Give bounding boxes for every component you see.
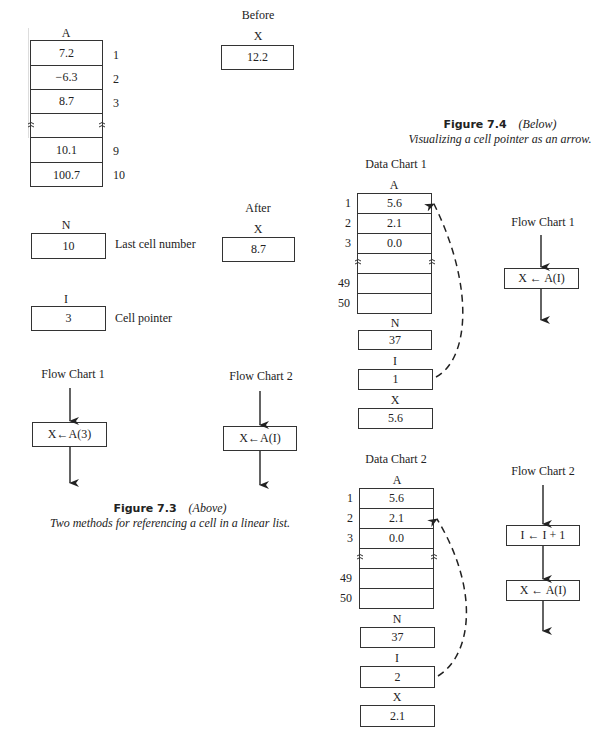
fig74-fc1-step-box: X ← A(I) [504, 268, 579, 289]
dc1-x-box: 5.6 [358, 408, 433, 429]
i-label: I [58, 292, 74, 307]
n-description: Last cell number [115, 237, 196, 252]
dc2-cell-1: 5.6 [360, 489, 433, 509]
figure-7-3-caption-text: Two methods for referencing a cell in a … [20, 516, 320, 531]
figure-7-3-position: (Above) [189, 501, 227, 515]
dc2-index-49: 49 [340, 571, 352, 586]
dc2-index-2: 2 [347, 511, 353, 526]
dc1-n-box: 37 [358, 330, 432, 350]
dc2-cell-2: 2.1 [360, 509, 433, 529]
fig74-fc2-title: Flow Chart 2 [500, 464, 586, 479]
dc2-array-label: A [387, 473, 407, 488]
dc1-array: 5.6 2.1 0.0 [357, 193, 432, 314]
dc2-n-label: N [387, 612, 407, 627]
array-a-cell-gap [31, 114, 102, 138]
after-x-box: 8.7 [222, 237, 295, 262]
fig74-fc1-title: Flow Chart 1 [500, 215, 586, 230]
dc2-i-box: 2 [360, 666, 435, 688]
dc1-cell-gap [358, 254, 431, 274]
figure-7-4-caption-text: Visualizing a cell pointer as an arrow. [395, 132, 605, 147]
dc2-array: 5.6 2.1 0.0 [359, 488, 434, 609]
before-heading: Before [222, 8, 294, 23]
before-x-label: X [222, 29, 294, 44]
after-x-label: X [222, 222, 294, 237]
dc2-cell-3: 0.0 [360, 529, 433, 549]
dc1-index-1: 1 [345, 196, 351, 211]
array-a-index-9: 9 [113, 144, 119, 159]
fc1-title: Flow Chart 1 [30, 367, 116, 382]
array-a: 7.2 −6.3 8.7 10.1 100.7 [30, 40, 103, 187]
dc1-index-49: 49 [338, 276, 350, 291]
dc1-pointer-arrow [434, 204, 463, 377]
array-a-cell-9: 10.1 [31, 138, 102, 163]
dc1-cell-49 [358, 274, 431, 294]
array-a-index-3: 3 [113, 96, 119, 111]
figure-7-3-label: Figure 7.3 [113, 502, 176, 515]
dc2-cell-gap [360, 549, 433, 569]
dc2-title: Data Chart 2 [358, 452, 434, 467]
array-a-index-2: 2 [113, 72, 119, 87]
dc2-n-box: 37 [360, 627, 435, 648]
array-a-cell-3: 8.7 [31, 90, 102, 114]
before-x-box: 12.2 [221, 45, 294, 70]
dc2-index-50: 50 [340, 591, 352, 606]
dc2-index-1: 1 [347, 491, 353, 506]
fc2-title: Flow Chart 2 [218, 369, 304, 384]
dc1-cell-2: 2.1 [358, 214, 431, 234]
figure-7-3-caption-title: Figure 7.3 (Above) [20, 501, 320, 516]
dc2-i-label: I [389, 651, 405, 666]
dc2-pointer-arrow [437, 519, 466, 676]
dc1-i-label: I [387, 354, 403, 369]
dc1-index-50: 50 [338, 296, 350, 311]
fc1-step-box: X←A(3) [32, 422, 107, 447]
scan-edge-artifact [28, 28, 29, 138]
after-heading: After [222, 201, 294, 216]
array-a-label: A [55, 26, 77, 41]
i-box: 3 [31, 306, 106, 331]
dc1-index-3: 3 [345, 236, 351, 251]
array-a-cell-2: −6.3 [31, 66, 102, 90]
array-a-cell-10: 100.7 [31, 163, 102, 187]
dc1-cell-1: 5.6 [358, 194, 431, 214]
dc2-cell-49 [360, 569, 433, 589]
dc1-cell-3: 0.0 [358, 234, 431, 254]
dc1-i-box: 1 [358, 369, 433, 390]
n-box: 10 [31, 233, 106, 259]
fc2-step-box: X←A(I) [223, 426, 297, 451]
dc2-index-3: 3 [347, 531, 353, 546]
i-description: Cell pointer [115, 311, 172, 326]
array-a-cell-1: 7.2 [31, 41, 102, 66]
fig74-fc2-step-1-box: I ← I + 1 [506, 525, 580, 546]
dc1-x-label: X [385, 393, 405, 408]
dc2-x-label: X [387, 690, 407, 705]
dc2-x-box: 2.1 [360, 705, 435, 727]
dc2-cell-50 [360, 589, 433, 609]
fig74-fc2-step-2-box: X ← A(I) [506, 580, 580, 601]
dc1-title: Data Chart 1 [358, 157, 434, 172]
dc1-n-label: N [385, 316, 405, 331]
figure-7-4-caption-title: Figure 7.4 (Below) [390, 117, 606, 132]
dc1-index-2: 2 [345, 216, 351, 231]
dc1-array-label: A [384, 178, 404, 193]
n-label: N [56, 218, 76, 233]
array-a-index-10: 10 [113, 168, 125, 183]
array-a-index-1: 1 [113, 48, 119, 63]
figure-7-4-position: (Below) [519, 117, 557, 131]
dc1-cell-50 [358, 294, 431, 314]
figure-7-4-label: Figure 7.4 [443, 118, 506, 131]
